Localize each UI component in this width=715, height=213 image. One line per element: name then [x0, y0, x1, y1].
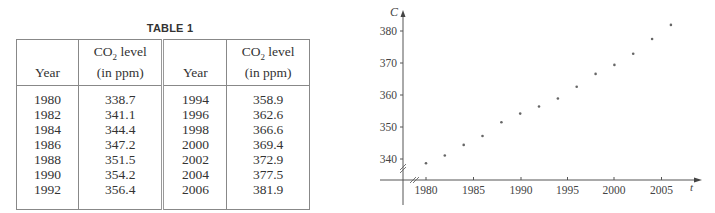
year-cell: 1998 [163, 122, 227, 137]
data-point [519, 112, 522, 115]
co2-cell: 377.5 [227, 167, 310, 182]
svg-text:380: 380 [380, 25, 398, 37]
data-point [462, 144, 465, 147]
year-cell: 1986 [17, 137, 79, 152]
year-cell: 1996 [163, 107, 227, 122]
year-cell: 1982 [17, 107, 79, 122]
header-co2-right: CO2 level(in ppm) [227, 40, 310, 86]
year-cell: 1984 [17, 122, 79, 137]
co2-cell: 347.2 [78, 137, 163, 152]
year-cell: 1980 [17, 85, 79, 107]
year-cell: 1992 [17, 182, 79, 210]
year-cell: 1990 [17, 167, 79, 182]
co2-cell: 354.2 [78, 167, 163, 182]
co2-cell: 356.4 [78, 182, 163, 210]
table-row: 1990 354.2 2004 377.5 [17, 167, 310, 182]
co2-cell: 358.9 [227, 85, 310, 107]
co2-cell: 351.5 [78, 152, 163, 167]
co2-cell: 381.9 [227, 182, 310, 210]
year-cell: 2004 [163, 167, 227, 182]
svg-text:2000: 2000 [603, 184, 626, 196]
svg-text:1980: 1980 [415, 184, 438, 196]
data-point [444, 154, 447, 157]
year-cell: 2006 [163, 182, 227, 210]
data-point [670, 24, 673, 27]
year-cell: 2002 [163, 152, 227, 167]
x-axis-label: t [690, 181, 694, 193]
year-cell: 2000 [163, 137, 227, 152]
data-point [632, 52, 635, 55]
svg-text:1990: 1990 [510, 184, 533, 196]
co2-cell: 338.7 [78, 85, 163, 107]
y-axis-arrow-icon [401, 10, 406, 17]
header-co2-left: CO2 level(in ppm) [78, 40, 163, 86]
x-tick-labels: 1980 1985 1990 1995 2000 2005 [415, 184, 674, 196]
year-cell: 1994 [163, 85, 227, 107]
table-row: 1980 338.7 1994 358.9 [17, 85, 310, 107]
data-points [425, 24, 673, 165]
table-header-row: Year CO2 level(in ppm) Year CO2 level(in… [17, 40, 310, 86]
header-year-left: Year [17, 40, 79, 86]
co2-cell: 366.6 [227, 122, 310, 137]
svg-text:1985: 1985 [462, 184, 485, 196]
table-row: 1984 344.4 1998 366.6 [17, 122, 310, 137]
table-row: 1988 351.5 2002 372.9 [17, 152, 310, 167]
data-point [651, 38, 654, 41]
x-axis-arrow-icon [694, 178, 702, 183]
year-cell: 1988 [17, 152, 79, 167]
data-point [425, 162, 428, 165]
svg-text:340: 340 [380, 153, 398, 165]
table-row: 1986 347.2 2000 369.4 [17, 137, 310, 152]
co2-cell: 369.4 [227, 137, 310, 152]
header-year-right: Year [163, 40, 227, 86]
svg-text:350: 350 [380, 121, 398, 133]
co2-cell: 341.1 [78, 107, 163, 122]
y-tick-labels: 340 350 360 370 380 [380, 25, 398, 165]
data-point [594, 73, 597, 76]
svg-text:1995: 1995 [556, 184, 579, 196]
svg-text:360: 360 [380, 89, 398, 101]
co2-cell: 362.6 [227, 107, 310, 122]
co2-scatter-chart: C t 340 350 360 370 380 1980 1985 1990 [360, 0, 715, 213]
co2-table: Year CO2 level(in ppm) Year CO2 level(in… [16, 39, 310, 210]
table-row: 1992 356.4 2006 381.9 [17, 182, 310, 210]
y-axis-label: C [390, 5, 399, 19]
table-title: TABLE 1 [0, 22, 340, 34]
data-point [538, 105, 541, 108]
svg-text:2005: 2005 [650, 184, 673, 196]
svg-text:370: 370 [380, 57, 398, 69]
table-row: 1982 341.1 1996 362.6 [17, 107, 310, 122]
data-point [557, 97, 560, 100]
co2-cell: 344.4 [78, 122, 163, 137]
co2-cell: 372.9 [227, 152, 310, 167]
data-point [500, 121, 503, 124]
data-point [481, 135, 484, 138]
data-point [613, 64, 616, 67]
data-point [575, 85, 578, 88]
